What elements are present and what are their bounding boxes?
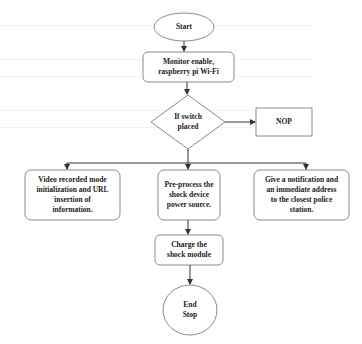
video-label: Video recorded mode initialization and U…	[25, 170, 120, 220]
notify-label: Give a notification and an immediate add…	[254, 170, 349, 220]
start-label: Start	[154, 13, 214, 41]
charge-label: Charge the shock module	[155, 235, 223, 265]
decision-label: If switch placed	[160, 108, 216, 136]
preprocess-label: Pre-process the shock device power sourc…	[158, 170, 220, 220]
monitor-label: Monitor enable, raspberry pi Wi-Fi	[143, 52, 234, 82]
end-label: End Stop	[163, 286, 217, 334]
nop-label: NOP	[256, 108, 312, 136]
